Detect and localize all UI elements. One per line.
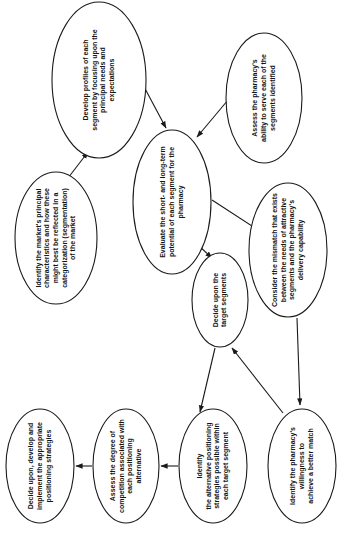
node-label-line: Evaluate the short- and long-term <box>159 146 167 258</box>
node-label-line: implement the appropriate <box>36 422 44 510</box>
node-label-line: Decide upon the <box>212 273 220 328</box>
node-label-line: pharmacy <box>176 185 184 218</box>
node-label-line: competition associated with <box>118 419 126 513</box>
node-assess-competition: Assess the degree ofcompetition associat… <box>93 409 159 523</box>
node-decide-target-segments: Decide upon thetarget segments <box>192 253 248 347</box>
edge-identify-willingness-to-decide-target <box>232 348 283 413</box>
node-label-line: target segments <box>220 273 228 327</box>
node-label-line: potential of each segment for the <box>168 147 176 257</box>
node-identify-alternative-positioning: Identifythe alternative positioningstrat… <box>179 409 247 523</box>
node-evaluate-potential: Evaluate the short- and long-termpotenti… <box>133 130 211 274</box>
node-label-line: Identify <box>196 453 204 478</box>
node-label-line: positioning strategies <box>44 430 52 503</box>
node-label-line: segments and the pharmacy's <box>288 200 296 300</box>
diagram-canvas: Develop profiles of eachsegment by focus… <box>0 0 355 550</box>
node-label-line: expectations <box>108 58 116 101</box>
node-label-decide-target-segments: Decide upon thetarget segments <box>212 273 229 328</box>
node-label-line: between the needs of attractive <box>280 198 287 302</box>
node-label-line: might best be reflected in a <box>52 193 60 284</box>
node-label-line: of the market <box>69 215 76 260</box>
node-label-line: each target segment <box>222 431 230 500</box>
node-identify-willingness: Identify the pharmacy'swillingness toach… <box>268 409 336 523</box>
node-label-line: achieve a better match <box>306 428 313 503</box>
node-label-line: Assess the pharmacy's <box>251 59 259 137</box>
node-identify-market: Identify the market's principalcharacter… <box>15 172 97 304</box>
node-label-line: willingness to <box>298 443 306 490</box>
node-label-line: Assess the degree of <box>109 430 117 501</box>
node-label-line: Identify the market's principal <box>35 188 43 287</box>
node-consider-mismatch: Consider the mismatch that existsbetween… <box>249 183 327 317</box>
node-label-line: characteristics and how these <box>43 188 50 288</box>
node-label-line: alternative <box>135 448 142 483</box>
node-label-line: segment by focusing upon the <box>91 29 99 131</box>
node-label-line: Consider the mismatch that exists <box>271 193 278 307</box>
node-label-line: principal needs and <box>99 47 107 113</box>
edge-assess-ability-to-evaluate <box>197 100 228 137</box>
node-label-line: ability to serve each of the <box>260 54 268 142</box>
node-assess-ability: Assess the pharmacy'sability to serve ea… <box>226 33 302 163</box>
edge-identify-market-to-develop-profiles <box>68 152 88 178</box>
edge-consider-mismatch-to-identify-willingness <box>297 318 300 405</box>
node-label-line: strategies possible within <box>213 423 221 509</box>
edge-decide-target-to-identify-alternative <box>200 348 215 412</box>
node-label-line: categorization (segmentation) <box>60 188 68 288</box>
node-label-line: the alternative positioning <box>205 422 213 509</box>
nodes-layer: Develop profiles of eachsegment by focus… <box>6 2 336 523</box>
node-develop-profiles: Develop profiles of eachsegment by focus… <box>52 2 146 158</box>
node-label-assess-ability: Assess the pharmacy'sability to serve ea… <box>251 54 276 142</box>
node-label-line: Identify the pharmacy's <box>289 427 297 505</box>
node-label-line: each positioning <box>126 438 134 494</box>
node-label-line: Develop profiles of each <box>82 40 90 121</box>
node-decide-implement-positioning: Decide upon, develop andimplement the ap… <box>6 409 74 523</box>
flowchart-svg: Develop profiles of eachsegment by focus… <box>0 0 355 550</box>
node-label-line: Decide upon, develop and <box>27 423 35 510</box>
node-label-line: delivery capability <box>297 220 305 281</box>
node-label-line: segments identified <box>268 65 276 131</box>
node-label-decide-implement-positioning: Decide upon, develop andimplement the ap… <box>27 422 52 510</box>
